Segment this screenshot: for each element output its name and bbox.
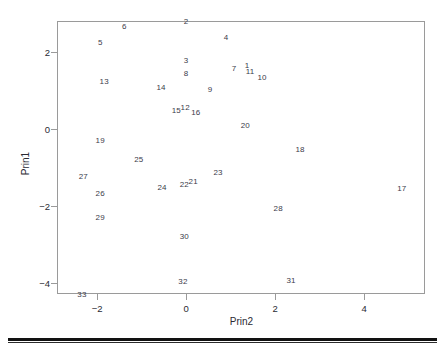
data-point-label: 22 xyxy=(180,180,189,189)
data-point-label: 15 xyxy=(172,106,181,115)
data-point-label: 27 xyxy=(79,171,88,180)
data-point-label: 21 xyxy=(189,177,198,186)
data-point-label: 9 xyxy=(208,84,213,93)
x-tick-label: 4 xyxy=(361,303,366,314)
data-point-label: 25 xyxy=(134,155,143,164)
data-point-label: 10 xyxy=(258,72,267,81)
x-axis-title: Prin2 xyxy=(0,316,445,327)
data-point-label: 12 xyxy=(181,102,190,111)
x-tick-mark xyxy=(275,294,276,300)
data-point-label: 7 xyxy=(232,63,237,72)
x-tick-mark xyxy=(364,294,365,300)
x-tick-label: 2 xyxy=(272,303,277,314)
data-point-label: 23 xyxy=(214,168,223,177)
x-axis-title-text: Prin2 xyxy=(230,316,253,327)
data-point-label: 31 xyxy=(286,276,295,285)
data-point-label: 24 xyxy=(157,182,166,191)
data-point-label: 3 xyxy=(184,55,189,64)
y-tick-label: 2 xyxy=(20,46,50,57)
data-point-label: 29 xyxy=(96,212,105,221)
y-tick-mark xyxy=(51,283,57,284)
x-tick-label: −2 xyxy=(92,303,103,314)
data-point-label: 16 xyxy=(191,108,200,117)
data-point-label: 8 xyxy=(184,69,189,78)
y-tick-mark xyxy=(51,52,57,53)
data-point-label: 5 xyxy=(98,38,103,47)
data-point-label: 6 xyxy=(122,22,127,31)
data-point-label: 11 xyxy=(246,67,255,76)
footer-rule-thin xyxy=(8,342,437,343)
data-point-label: 28 xyxy=(274,204,283,213)
x-tick-mark xyxy=(186,294,187,300)
y-tick-mark xyxy=(51,129,57,130)
y-tick-label: −2 xyxy=(20,201,50,212)
data-point-label: 2 xyxy=(184,17,189,26)
x-tick-label: 0 xyxy=(183,303,188,314)
data-point-label: 20 xyxy=(241,121,250,130)
data-point-label: 18 xyxy=(295,145,304,154)
data-point-label: 26 xyxy=(96,189,105,198)
y-tick-label: −4 xyxy=(20,278,50,289)
scatter-plot-figure: 20−2−4 −2024 123456789101112131415161718… xyxy=(0,0,445,353)
plot-area xyxy=(57,21,425,294)
data-point-label: 30 xyxy=(180,231,189,240)
x-tick-mark xyxy=(97,294,98,300)
data-point-label: 14 xyxy=(157,82,166,91)
data-point-label: 33 xyxy=(77,290,86,299)
y-tick-mark xyxy=(51,206,57,207)
y-axis-title: Prin1 xyxy=(20,132,31,196)
data-point-label: 4 xyxy=(224,32,229,41)
data-point-label: 19 xyxy=(96,136,105,145)
data-point-label: 13 xyxy=(100,77,109,86)
footer-rule xyxy=(8,338,437,341)
data-point-label: 17 xyxy=(397,183,406,192)
data-point-label: 32 xyxy=(178,277,187,286)
